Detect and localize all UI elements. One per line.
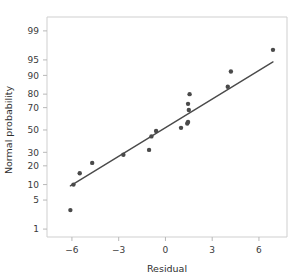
y-tick-label: 5 (33, 195, 39, 205)
y-tick-label: 80 (28, 89, 40, 99)
y-tick-label: 30 (28, 148, 40, 158)
data-point-marker (179, 126, 183, 130)
y-tick-label: 20 (28, 161, 40, 171)
y-axis-title: Normal probability (3, 86, 14, 174)
y-tick-label: 70 (28, 103, 40, 113)
x-tick-label: 3 (209, 245, 215, 255)
data-point-marker (186, 120, 190, 124)
chart-canvas: −6−3036 15102030507080909599 Residual No… (0, 0, 299, 277)
data-point-marker (154, 129, 158, 133)
data-point-marker (90, 161, 94, 165)
x-axis-title: Residual (147, 263, 187, 274)
data-point-marker (71, 182, 75, 186)
data-point-marker (271, 48, 275, 52)
data-point-marker (147, 148, 151, 152)
y-tick-label: 50 (28, 125, 40, 135)
x-tick-label: −3 (112, 245, 125, 255)
x-tick-label: −6 (65, 245, 79, 255)
y-tick-label: 95 (28, 55, 39, 65)
x-tick-label: 0 (163, 245, 169, 255)
data-point-marker (226, 85, 230, 89)
data-point-marker (68, 208, 72, 212)
y-tick-label: 10 (28, 180, 40, 190)
y-tick-label: 1 (33, 224, 39, 234)
data-point-marker (149, 134, 153, 138)
y-tick-label: 99 (28, 26, 40, 36)
chart-background (0, 0, 299, 277)
data-point-marker (187, 108, 191, 112)
data-point-marker (121, 153, 125, 157)
data-point-marker (78, 171, 82, 175)
data-point-marker (186, 102, 190, 106)
x-tick-label: 6 (256, 245, 262, 255)
data-point-marker (187, 92, 191, 96)
y-tick-label: 90 (28, 71, 40, 81)
data-point-marker (229, 69, 233, 73)
normal-probability-plot: −6−3036 15102030507080909599 Residual No… (0, 0, 299, 277)
